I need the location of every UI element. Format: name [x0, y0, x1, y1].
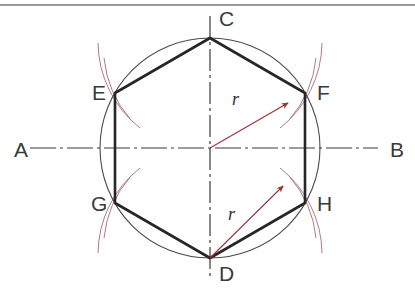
axis-label-a: A	[14, 138, 28, 161]
vertex-label-d: D	[219, 262, 234, 285]
radius-label-upper: r	[232, 89, 240, 109]
vertex-label-c: C	[219, 7, 234, 30]
radius-arrow-center-to-f	[210, 103, 288, 148]
axis-label-b: B	[390, 138, 404, 161]
vertex-label-h: H	[317, 192, 332, 215]
vertex-label-e: E	[92, 81, 106, 104]
radius-label-lower: r	[228, 204, 236, 224]
vertex-label-f: F	[317, 81, 330, 104]
vertex-label-g: G	[91, 192, 107, 215]
hexagon-construction-diagram: C F H D G E A B r r	[0, 0, 415, 290]
geometry-figure: C F H D G E A B r r	[0, 0, 415, 290]
